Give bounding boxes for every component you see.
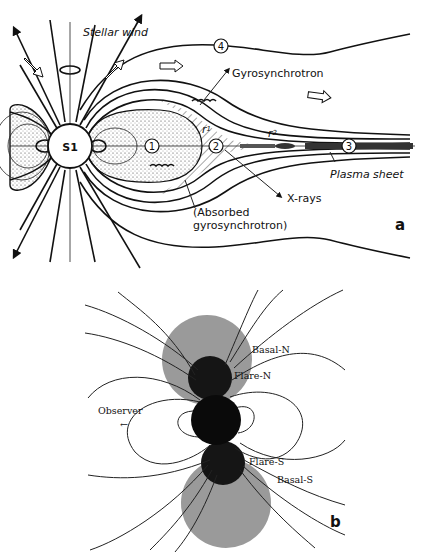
svg-text:4: 4 xyxy=(218,41,224,52)
central-star xyxy=(191,395,241,445)
region-1: 1 xyxy=(145,139,159,153)
region-4: 4 xyxy=(214,39,228,53)
region-3: 3 xyxy=(342,139,356,153)
wind-arrow-icon xyxy=(105,60,124,79)
svg-text:3: 3 xyxy=(346,141,352,152)
basal-s-label: Basal-S xyxy=(277,474,313,485)
panel-b: Basal-N Flare-N Observer ← Flare-S Basal… xyxy=(85,290,345,552)
panel-b-label: b xyxy=(330,513,341,531)
svg-text:r2: r2 xyxy=(268,127,278,140)
plasma-sheet-label: Plasma sheet xyxy=(330,168,404,181)
svg-text:1: 1 xyxy=(149,141,155,152)
wind-arrow-icon xyxy=(307,89,331,104)
observer-arrow-icon: ← xyxy=(120,419,128,430)
basal-n-label: Basal-N xyxy=(252,344,290,355)
wind-arrow-icon xyxy=(160,60,183,72)
flare-s-label: Flare-S xyxy=(249,456,284,467)
absorbed-label-2: gyrosynchrotron) xyxy=(193,219,287,232)
inner-dotted-lobe xyxy=(85,110,202,183)
stellar-wind-label: Stellar wind xyxy=(83,26,149,39)
panel-a-label: a xyxy=(395,216,405,234)
wind-arrow-icon xyxy=(24,58,43,77)
star-s1-label: S1 xyxy=(62,141,78,154)
plasma-sheet xyxy=(305,143,413,149)
flare-n-label: Flare-N xyxy=(234,370,271,381)
region-2: 2 xyxy=(209,139,223,153)
gyrosynchrotron-label: Gyrosynchrotron xyxy=(232,67,324,80)
svg-text:2: 2 xyxy=(213,141,219,152)
panel-a: S1 1 2 3 4 Stellar wind Gyrosynchrotron … xyxy=(0,18,415,268)
absorbed-label-1: (Absorbed xyxy=(193,206,250,219)
flare-n-region xyxy=(188,356,232,400)
x-rays-label: X-rays xyxy=(287,192,322,205)
figure: S1 1 2 3 4 Stellar wind Gyrosynchrotron … xyxy=(0,0,425,559)
observer-label: Observer xyxy=(98,405,143,416)
